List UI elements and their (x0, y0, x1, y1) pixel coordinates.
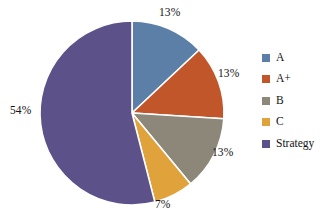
legend-item-c[interactable]: C (262, 117, 327, 128)
legend-item-b[interactable]: B (262, 95, 327, 106)
legend-item-label: C (276, 116, 284, 128)
pie-label-a: 13% (159, 7, 180, 19)
pie-label-c: 7% (155, 199, 171, 211)
pie-label-b: 13% (212, 147, 233, 159)
legend-swatch-icon (262, 118, 270, 126)
legend-item-strategy[interactable]: Strategy (262, 138, 327, 149)
legend-swatch-icon (262, 75, 270, 83)
chart-legend: AA+BCStrategy (262, 52, 327, 149)
pie-chart-figure: 13%13%13%7%54% AA+BCStrategy (0, 0, 327, 222)
legend-item-a[interactable]: A (262, 52, 327, 63)
legend-swatch-icon (262, 140, 270, 148)
pie-slices-group (40, 21, 224, 205)
legend-item-label: Strategy (276, 138, 314, 150)
legend-item-label: A (276, 52, 284, 64)
legend-swatch-icon (262, 97, 270, 105)
legend-item-label: B (276, 95, 284, 107)
pie-label-aplus: 13% (218, 68, 239, 80)
legend-item-label: A+ (276, 73, 291, 85)
legend-swatch-icon (262, 54, 270, 62)
legend-item-aplus[interactable]: A+ (262, 74, 327, 85)
pie-label-strategy: 54% (10, 105, 31, 117)
